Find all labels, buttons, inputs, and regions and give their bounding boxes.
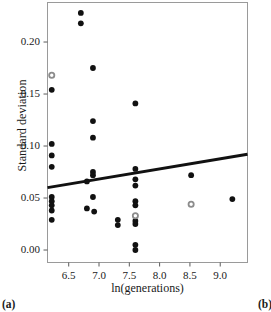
data-markers bbox=[49, 10, 235, 253]
data-point bbox=[49, 152, 55, 158]
data-point bbox=[132, 183, 138, 189]
data-point bbox=[49, 202, 55, 208]
data-point bbox=[91, 209, 97, 215]
data-point bbox=[90, 118, 96, 124]
data-point bbox=[90, 194, 96, 200]
data-point bbox=[49, 87, 55, 93]
figure-panel-a: Standard deviation 0.000.050.100.150.20 … bbox=[0, 0, 271, 312]
data-point bbox=[115, 222, 121, 228]
data-point bbox=[78, 10, 84, 16]
data-point bbox=[84, 178, 90, 184]
data-point bbox=[188, 172, 194, 178]
data-point-open bbox=[133, 213, 138, 218]
data-point bbox=[49, 164, 55, 170]
data-point bbox=[132, 247, 138, 253]
panel-letter-a: (a) bbox=[2, 298, 15, 310]
data-point bbox=[84, 206, 90, 212]
data-point bbox=[132, 100, 138, 106]
data-point-open bbox=[189, 202, 194, 207]
data-point bbox=[78, 20, 84, 26]
plot-frame bbox=[48, 3, 248, 263]
data-point bbox=[132, 202, 138, 208]
scatter-plot-area bbox=[0, 0, 271, 312]
data-point-open bbox=[49, 73, 54, 78]
data-point bbox=[90, 172, 96, 178]
data-point bbox=[132, 176, 138, 182]
data-point bbox=[132, 221, 138, 227]
data-point bbox=[49, 217, 55, 223]
regression-line bbox=[48, 154, 248, 187]
plot-frame-rect bbox=[48, 3, 248, 263]
panel-letter-b: (b) bbox=[258, 298, 271, 310]
data-point bbox=[132, 166, 138, 172]
trendline bbox=[48, 154, 248, 187]
data-point bbox=[115, 217, 121, 223]
data-point bbox=[229, 196, 235, 202]
x-axis-ticks bbox=[69, 263, 221, 267]
data-point bbox=[90, 65, 96, 71]
data-point bbox=[49, 141, 55, 147]
y-axis-ticks bbox=[44, 42, 48, 250]
data-point bbox=[49, 208, 55, 214]
data-point bbox=[132, 242, 138, 248]
data-point bbox=[90, 135, 96, 141]
